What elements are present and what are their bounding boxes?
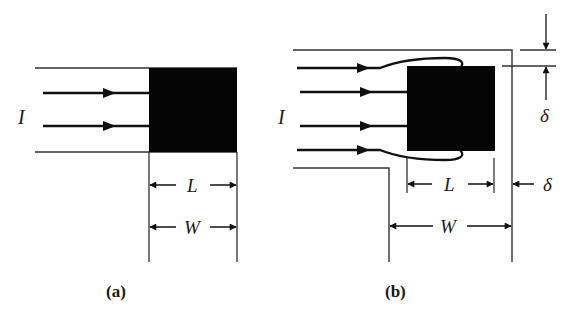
svg-text:W: W (440, 216, 458, 237)
panel-b: I δ L δ W (b) (277, 14, 556, 301)
arrow-head-icon (357, 63, 370, 73)
current-label: I (277, 106, 286, 128)
dimension-length: L (150, 175, 236, 196)
conductor-inner-edge (293, 168, 389, 262)
panel-caption: (a) (106, 282, 126, 301)
svg-text:W: W (184, 217, 202, 238)
panel-a: I L W (a) (17, 68, 237, 301)
arrow-head-icon (360, 121, 373, 131)
contact-block (407, 66, 495, 151)
dimension-length: L (408, 174, 493, 195)
arrow-head-icon (103, 88, 116, 98)
arrow-head-icon (357, 145, 370, 155)
contact-block (149, 68, 237, 152)
panel-caption: (b) (385, 282, 406, 301)
dimension-delta-top: δ (502, 14, 556, 126)
dimension-delta-right: δ (513, 174, 553, 195)
svg-text:L: L (186, 175, 198, 196)
current-label: I (17, 106, 26, 128)
arrow-head-icon (103, 121, 116, 131)
current-arrows (43, 88, 149, 131)
arrow-head-icon (360, 87, 373, 97)
svg-text:δ: δ (540, 105, 550, 126)
dimension-width: W (150, 217, 236, 238)
figure-canvas: I L W (a) (0, 0, 573, 314)
dimension-width: W (390, 216, 511, 237)
svg-text:L: L (443, 174, 455, 195)
svg-text:δ: δ (543, 174, 553, 195)
